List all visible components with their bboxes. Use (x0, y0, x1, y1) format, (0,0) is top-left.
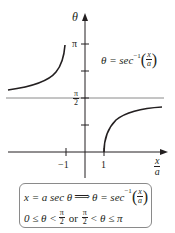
x-tick-label-1: 1 (101, 159, 106, 171)
y-tick-label-pi: π (72, 38, 77, 50)
x-axis-arrow-icon (160, 149, 168, 155)
formula-line-substitution: x = a sec θ ⟹ θ = sec −1 ( x a ) (24, 186, 147, 207)
formula-line-range: 0 ≤ θ < π 2 or π 2 < θ ≤ π (24, 207, 147, 228)
curve-label: θ = sec −1 ( x a ) (101, 51, 157, 68)
formula-box: x = a sec θ ⟹ θ = sec −1 ( x a ) 0 ≤ θ <… (19, 183, 152, 228)
curve-right-branch (104, 107, 162, 152)
x-tick-label-neg1: −1 (58, 159, 69, 171)
y-axis-arrow-icon (82, 13, 88, 21)
x-axis-label: x a (154, 156, 160, 177)
curve-left-branch (8, 45, 65, 90)
y-axis-label: θ (72, 11, 78, 23)
y-tick-label-pi-over-2: π 2 (73, 90, 79, 107)
